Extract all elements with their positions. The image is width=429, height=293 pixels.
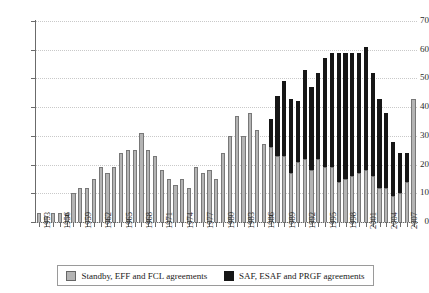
bar-segment-standby [384, 188, 388, 222]
bar-column [139, 133, 143, 222]
bar-segment-standby [323, 167, 327, 222]
bar-column [384, 113, 388, 222]
bar-segment-standby [262, 144, 266, 222]
legend-swatch-black-icon [224, 271, 234, 281]
bar-column [235, 116, 239, 222]
bar-column [337, 53, 341, 222]
bar-segment-saf [343, 53, 347, 179]
legend-item-saf: SAF, ESAF and PRGF agreements [224, 271, 365, 281]
bar-column [303, 70, 307, 222]
y-tick-mark-70 [31, 21, 35, 22]
y-tick-mark-50 [31, 78, 35, 79]
bar-column [377, 99, 381, 222]
x-tick-label-1965: 1965 [125, 212, 134, 229]
bar-column [350, 53, 354, 222]
x-tick-label-2001: 2001 [369, 212, 378, 229]
y-tick-mark-10 [31, 193, 35, 194]
bar-segment-standby [119, 153, 123, 222]
bar-column [119, 153, 123, 222]
bar-segment-saf [364, 47, 368, 170]
bar-segment-saf [405, 153, 409, 182]
bar-column [255, 130, 259, 222]
bar-column [78, 188, 82, 222]
y-tick-mark-40 [31, 107, 35, 108]
x-axis-labels: 1953195619591962196519681971197419771980… [0, 222, 429, 262]
bar-segment-saf [323, 58, 327, 167]
bar-column [357, 53, 361, 222]
bar-segment-saf [275, 96, 279, 156]
bar-segment-saf [391, 142, 395, 197]
bar-column [411, 99, 415, 222]
x-tick-label-1953: 1953 [43, 212, 52, 229]
bar-segment-saf [377, 99, 381, 188]
bar-column [371, 73, 375, 222]
y-tick-mark-30 [31, 136, 35, 137]
bar-segment-saf [357, 53, 361, 174]
legend-label-standby: Standby, EFF and FCL agreements [81, 271, 207, 281]
x-tick-label-1968: 1968 [145, 212, 154, 229]
x-tick-label-1959: 1959 [84, 212, 93, 229]
bar-segment-saf [316, 73, 320, 159]
bar-segment-standby [78, 188, 82, 222]
bar-segment-standby [228, 136, 232, 222]
bar-column [309, 87, 313, 222]
bar-segment-standby [275, 156, 279, 222]
bar-segment-saf [384, 113, 388, 188]
bar-column [248, 113, 252, 222]
bar-segment-standby [139, 133, 143, 222]
bar-segment-standby [282, 156, 286, 222]
x-tick-label-1962: 1962 [104, 212, 113, 229]
bar-segment-saf [398, 153, 402, 193]
bar-segment-standby [235, 116, 239, 222]
bar-column [241, 136, 245, 222]
x-tick-label-1983: 1983 [247, 212, 256, 229]
bar-column [262, 144, 266, 222]
bar-segment-saf [289, 99, 293, 174]
bar-segment-standby [221, 153, 225, 222]
bar-series-group [36, 21, 417, 222]
x-tick-label-1977: 1977 [206, 212, 215, 229]
bar-segment-standby [180, 179, 184, 222]
bar-column [221, 153, 225, 222]
x-tick-label-1974: 1974 [186, 212, 195, 229]
x-tick-label-1971: 1971 [165, 212, 174, 229]
x-tick-label-2007: 2007 [410, 212, 419, 229]
bar-column [323, 58, 327, 222]
legend-swatch-gray-icon [66, 271, 76, 281]
bar-segment-saf [303, 70, 307, 159]
bar-segment-saf [371, 73, 375, 176]
bar-segment-saf [350, 53, 354, 176]
y-tick-mark-20 [31, 165, 35, 166]
bar-segment-saf [296, 101, 300, 161]
y-tick-mark-60 [31, 50, 35, 51]
bar-segment-standby [269, 147, 273, 222]
bar-segment-saf [309, 87, 313, 170]
bar-segment-standby [411, 99, 415, 222]
bar-segment-saf [282, 81, 286, 156]
x-tick-label-1956: 1956 [63, 212, 72, 229]
bar-segment-saf [330, 53, 334, 168]
bar-segment-standby [37, 213, 41, 222]
bar-column [289, 99, 293, 222]
bar-column [316, 73, 320, 222]
x-tick-label-1992: 1992 [308, 212, 317, 229]
x-tick-label-1998: 1998 [349, 212, 358, 229]
x-tick-label-1989: 1989 [288, 212, 297, 229]
bar-segment-saf [337, 53, 341, 182]
chart-legend: Standby, EFF and FCL agreements SAF, ESA… [57, 265, 374, 286]
bar-segment-saf [269, 119, 273, 148]
bar-column [228, 136, 232, 222]
bar-column [364, 47, 368, 222]
legend-label-saf: SAF, ESAF and PRGF agreements [239, 271, 365, 281]
x-tick-label-2004: 2004 [390, 212, 399, 229]
bar-column [180, 179, 184, 222]
bar-segment-standby [241, 136, 245, 222]
bar-column [391, 142, 395, 222]
x-tick-label-1995: 1995 [329, 212, 338, 229]
chart-container: 010203040506070 195319561959196219651968… [0, 0, 429, 293]
bar-column [343, 53, 347, 222]
plot-area [36, 21, 417, 222]
bar-segment-standby [255, 130, 259, 222]
x-tick-label-1986: 1986 [267, 212, 276, 229]
bar-segment-standby [377, 188, 381, 222]
